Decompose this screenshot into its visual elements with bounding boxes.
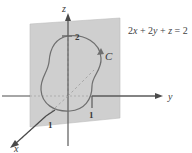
y-axis-arrowhead: [155, 93, 163, 99]
equation-coef-y: + 2: [137, 25, 153, 36]
figure-container: z y x 2 1 1 C 2x + 2y + z = 2: [0, 0, 192, 153]
x-tick-label-1: 1: [48, 120, 53, 130]
z-axis-arrowhead: [65, 13, 71, 21]
equation-plus: +: [158, 25, 169, 36]
plane-equation: 2x + 2y + z = 2: [128, 25, 188, 36]
equation-rhs: = 2: [172, 25, 188, 36]
curve-label-c: C: [105, 50, 113, 62]
y-tick-label-1: 1: [89, 110, 94, 120]
y-axis-label: y: [167, 91, 173, 102]
z-axis-label: z: [61, 3, 66, 14]
math-figure-svg: z y x 2 1 1 C 2x + 2y + z = 2: [0, 0, 192, 153]
x-axis-label: x: [13, 143, 19, 153]
z-tick-label-2: 2: [75, 32, 80, 42]
